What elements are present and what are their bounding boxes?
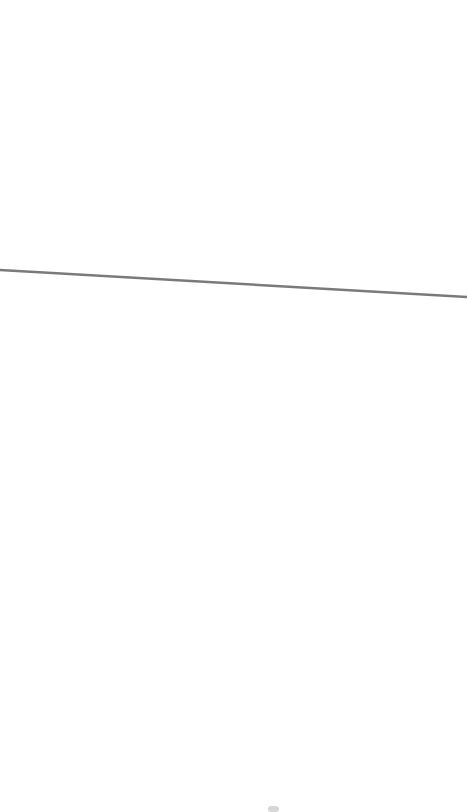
canvas-surface[interactable] bbox=[0, 0, 467, 812]
bottom-smudge-mark bbox=[268, 806, 279, 812]
drawing-canvas[interactable] bbox=[0, 0, 467, 812]
diagonal-stroke-line bbox=[0, 270, 467, 297]
